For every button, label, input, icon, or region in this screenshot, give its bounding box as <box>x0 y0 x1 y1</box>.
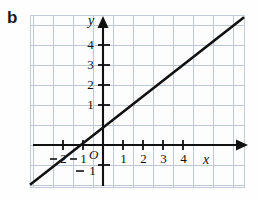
y-tick-label-1: 1 <box>84 98 97 111</box>
x-tick-label-negative-2: 2 <box>57 152 70 165</box>
y-tick-label-4: 4 <box>84 38 97 51</box>
y-tick-label-3: 3 <box>84 58 97 71</box>
x-tick-label-3: 3 <box>157 152 170 165</box>
x-tick-label-2: 2 <box>137 152 150 165</box>
y-tick-label-2: 2 <box>84 78 97 91</box>
figure-panel: b <box>0 0 258 199</box>
y-tick-label-negative-1: 1 <box>86 164 99 177</box>
coordinate-plot <box>0 0 258 199</box>
y-axis-label: y <box>88 14 94 28</box>
y-axis <box>98 16 109 186</box>
x-axis-label: x <box>203 153 209 167</box>
x-axis <box>33 140 248 151</box>
x-tick-label-4: 4 <box>177 152 190 165</box>
origin-label: O <box>89 148 98 161</box>
x-tick-label-1: 1 <box>117 152 130 165</box>
